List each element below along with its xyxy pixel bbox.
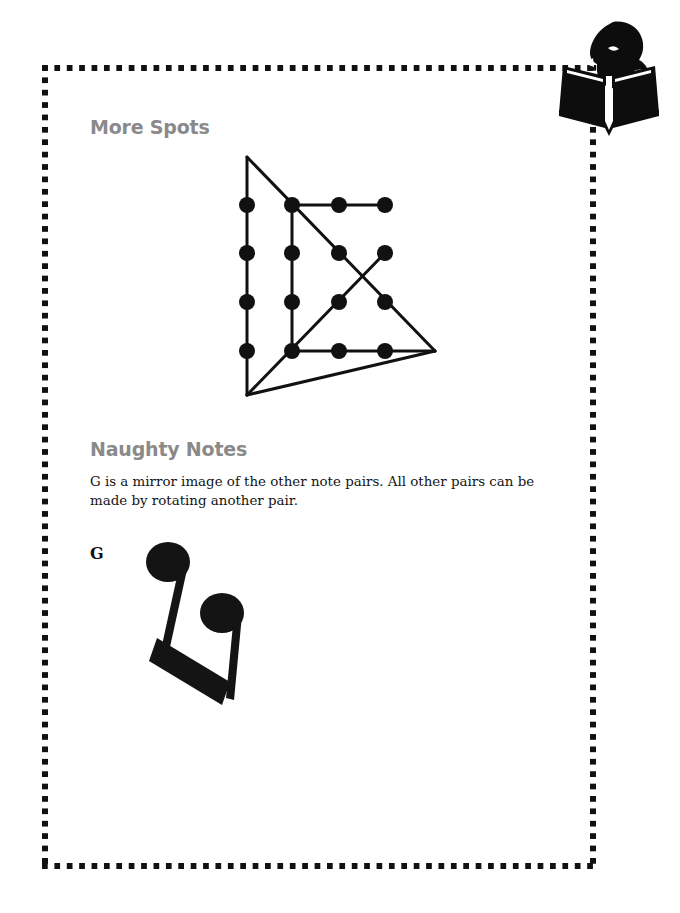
puzzle-dot xyxy=(239,197,255,213)
puzzle-dot xyxy=(377,197,393,213)
puzzle-dot xyxy=(377,245,393,261)
naughty-notes-body-text: G is a mirror image of the other note pa… xyxy=(90,473,550,510)
puzzle-dot xyxy=(239,245,255,261)
spots-puzzle-diagram xyxy=(220,145,460,410)
border-edge-left xyxy=(42,65,48,869)
border-edge-bottom xyxy=(42,863,596,869)
puzzle-dot xyxy=(284,245,300,261)
puzzle-dot xyxy=(377,343,393,359)
section-heading-naughty-notes: Naughty Notes xyxy=(90,438,247,460)
note-answer-label-g: G xyxy=(90,544,104,563)
puzzle-dot xyxy=(284,197,300,213)
puzzle-dot xyxy=(239,294,255,310)
puzzle-dot xyxy=(331,197,347,213)
puzzle-dot xyxy=(284,343,300,359)
puzzle-dot xyxy=(331,245,347,261)
puzzle-dot xyxy=(331,343,347,359)
puzzle-dot-group xyxy=(239,197,393,359)
border-edge-right xyxy=(590,65,596,869)
puzzle-line-cross-diagonal xyxy=(247,253,385,395)
note-beam xyxy=(149,638,230,705)
reader-silhouette-icon xyxy=(553,18,665,136)
page-canvas: More Spots xyxy=(0,0,680,913)
puzzle-dot xyxy=(331,294,347,310)
border-edge-top xyxy=(42,65,596,71)
puzzle-dot xyxy=(284,294,300,310)
puzzle-dot xyxy=(377,294,393,310)
section-heading-more-spots: More Spots xyxy=(90,116,210,138)
puzzle-dot xyxy=(239,343,255,359)
beamed-eighth-notes-figure xyxy=(130,535,260,715)
